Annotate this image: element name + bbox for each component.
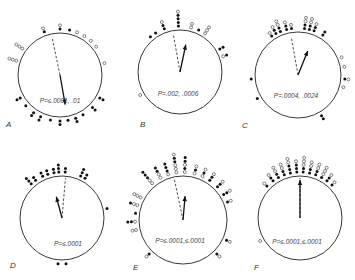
- panel-d: P=≤.0001D: [10, 163, 109, 270]
- open-data-dot: [167, 173, 170, 176]
- filled-data-dot: [304, 23, 307, 26]
- filled-data-dot: [129, 201, 132, 204]
- open-data-dot: [333, 181, 336, 184]
- open-data-dot: [322, 173, 325, 176]
- panel-letter-label: C: [242, 121, 248, 130]
- open-data-dot: [275, 20, 278, 23]
- open-data-dot: [157, 173, 160, 176]
- filled-data-dot: [321, 34, 324, 37]
- filled-data-dot: [218, 48, 221, 51]
- filled-data-dot: [41, 175, 44, 178]
- open-data-dot: [95, 45, 98, 48]
- open-data-dot: [139, 94, 142, 97]
- open-data-dot: [148, 179, 151, 182]
- filled-data-dot: [130, 220, 133, 223]
- filled-data-dot: [163, 163, 166, 166]
- open-data-dot: [195, 165, 198, 168]
- open-data-dot: [290, 23, 293, 26]
- filled-data-dot: [84, 177, 87, 180]
- filled-data-dot: [24, 104, 27, 107]
- filled-data-dot: [269, 176, 272, 179]
- p-value-label: P=≤.0001,≤.0001: [272, 238, 322, 245]
- open-data-dot: [15, 43, 18, 46]
- open-data-dot: [318, 163, 321, 166]
- open-data-dot: [295, 160, 298, 163]
- filled-data-dot: [94, 109, 97, 112]
- open-data-dot: [228, 189, 231, 192]
- filled-data-dot: [277, 176, 280, 179]
- filled-data-dot: [177, 25, 180, 28]
- filled-data-dot: [274, 32, 277, 35]
- open-data-dot: [208, 26, 211, 29]
- open-data-dot: [191, 22, 194, 25]
- open-data-dot: [303, 160, 306, 163]
- open-data-dot: [59, 24, 62, 27]
- open-data-dot: [283, 21, 286, 24]
- open-data-dot: [222, 55, 225, 58]
- filled-data-dot: [16, 98, 19, 101]
- open-data-dot: [11, 58, 14, 61]
- open-data-dot: [135, 229, 138, 232]
- filled-data-dot: [177, 14, 180, 17]
- open-data-dot: [159, 176, 162, 179]
- open-data-dot: [310, 165, 313, 168]
- open-data-dot: [267, 174, 270, 177]
- filled-data-dot: [34, 179, 37, 182]
- filled-data-dot: [320, 114, 323, 117]
- filled-data-dot: [295, 163, 298, 166]
- filled-data-dot: [49, 119, 52, 122]
- open-data-dot: [221, 180, 224, 183]
- open-data-dot: [139, 196, 142, 199]
- filled-data-dot: [57, 171, 60, 174]
- open-data-dot: [133, 193, 136, 196]
- filled-data-dot: [295, 171, 298, 174]
- open-data-dot: [21, 47, 24, 50]
- filled-data-dot: [32, 111, 35, 114]
- filled-data-dot: [270, 35, 273, 38]
- open-data-dot: [268, 32, 271, 35]
- filled-data-dot: [68, 29, 71, 32]
- filled-data-dot: [250, 78, 253, 81]
- filled-data-dot: [275, 173, 278, 176]
- filled-data-dot: [166, 169, 169, 172]
- open-data-dot: [175, 171, 178, 174]
- filled-data-dot: [64, 171, 67, 174]
- filled-data-dot: [53, 171, 56, 174]
- filled-data-dot: [278, 27, 281, 30]
- filled-data-dot: [164, 166, 167, 169]
- panel-b: P=.002, .0006B: [138, 10, 228, 129]
- open-data-dot: [259, 240, 262, 243]
- panel-a: P=≤.0001, .01A: [5, 24, 106, 129]
- filled-data-dot: [273, 29, 276, 32]
- filled-data-dot: [197, 29, 200, 32]
- filled-data-dot: [32, 176, 35, 179]
- open-data-dot: [280, 167, 283, 170]
- filled-data-dot: [225, 54, 228, 57]
- filled-data-dot: [184, 160, 187, 163]
- open-data-dot: [136, 204, 139, 207]
- filled-data-dot: [343, 78, 346, 81]
- filled-data-dot: [67, 119, 70, 122]
- filled-data-dot: [184, 156, 187, 159]
- filled-data-dot: [102, 98, 105, 101]
- filled-data-dot: [288, 168, 291, 171]
- open-data-dot: [305, 16, 308, 19]
- reference-direction-line: [62, 178, 65, 218]
- filled-data-dot: [320, 176, 323, 179]
- open-data-dot: [193, 172, 196, 175]
- open-data-dot: [302, 163, 305, 166]
- open-data-dot: [145, 255, 148, 258]
- filled-data-dot: [265, 185, 268, 188]
- open-data-dot: [8, 57, 11, 60]
- filled-data-dot: [216, 185, 219, 188]
- panel-e: P=≤.0001,≤.0001E: [126, 153, 232, 272]
- open-data-dot: [343, 65, 346, 68]
- open-data-dot: [325, 166, 328, 169]
- open-data-dot: [190, 26, 193, 29]
- filled-data-dot: [57, 262, 60, 265]
- filled-data-dot: [309, 24, 312, 27]
- open-data-dot: [228, 240, 231, 243]
- open-data-dot: [342, 86, 345, 89]
- filled-data-dot: [39, 115, 42, 118]
- filled-data-dot: [126, 220, 129, 223]
